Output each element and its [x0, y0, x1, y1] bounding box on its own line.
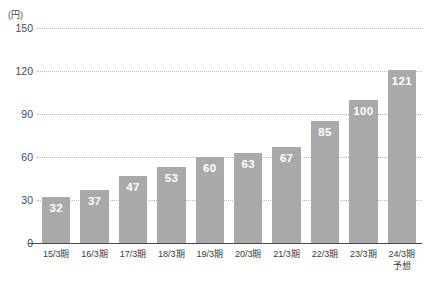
bar-slot: 85: [311, 28, 340, 243]
x-axis-tick-sublabel: 予想: [383, 260, 421, 272]
bar-value-label: 53: [157, 172, 186, 184]
x-axis-tick-label: 22/3期: [306, 248, 344, 260]
bar[interactable]: 60: [196, 157, 225, 243]
bar-slot: 63: [234, 28, 263, 243]
x-axis-baseline: [28, 243, 422, 244]
x-axis-tick-label-main: 20/3期: [235, 249, 262, 259]
bar[interactable]: 63: [234, 153, 263, 243]
x-axis-tick-label-main: 17/3期: [120, 249, 147, 259]
bar-slot: 67: [272, 28, 301, 243]
bar-value-label: 85: [311, 126, 340, 138]
x-axis-tick-label: 19/3期: [191, 248, 229, 260]
bar-slot: 47: [119, 28, 148, 243]
x-axis-tick-label: 24/3期予想: [383, 248, 421, 272]
bar-slot: 60: [196, 28, 225, 243]
y-axis-tick-label: 60: [3, 152, 33, 163]
bar-value-label: 67: [272, 152, 301, 164]
x-axis-tick-label-main: 21/3期: [273, 249, 300, 259]
bar[interactable]: 47: [119, 176, 148, 243]
y-axis-tick-label: 120: [3, 66, 33, 77]
x-axis-tick-label: 20/3期: [229, 248, 267, 260]
x-axis-tick-label-main: 24/3期: [389, 249, 416, 259]
x-axis-tick-label-main: 15/3期: [43, 249, 70, 259]
bar-value-label: 60: [196, 162, 225, 174]
bar-value-label: 121: [388, 75, 417, 87]
bar[interactable]: 85: [311, 121, 340, 243]
bar[interactable]: 100: [349, 100, 378, 243]
bar-slot: 32: [42, 28, 71, 243]
bar-value-label: 63: [234, 158, 263, 170]
bar[interactable]: 121: [388, 70, 417, 243]
y-axis: 0306090120150: [0, 28, 33, 243]
bar[interactable]: 37: [80, 190, 109, 243]
x-axis-tick-label-main: 16/3期: [81, 249, 108, 259]
y-axis-tick-label: 90: [3, 109, 33, 120]
bar-value-label: 100: [349, 105, 378, 117]
bar[interactable]: 53: [157, 167, 186, 243]
bar[interactable]: 67: [272, 147, 301, 243]
bar-slot: 37: [80, 28, 109, 243]
x-axis-tick-label-main: 22/3期: [312, 249, 339, 259]
x-axis-tick-label-main: 23/3期: [350, 249, 377, 259]
x-axis-tick-label-main: 19/3期: [197, 249, 224, 259]
bar-value-label: 37: [80, 195, 109, 207]
x-axis-tick-label: 16/3期: [75, 248, 113, 260]
bar-value-label: 32: [42, 202, 71, 214]
bar-slot: 121: [388, 28, 417, 243]
x-axis-tick-label: 15/3期: [37, 248, 75, 260]
y-axis-unit-label: (円): [8, 8, 23, 21]
y-axis-tick-label: 30: [3, 195, 33, 206]
bars-layer: 3237475360636785100121: [37, 28, 421, 243]
bar-value-label: 47: [119, 181, 148, 193]
x-axis-tick-label: 21/3期: [267, 248, 305, 260]
x-axis: 15/3期16/3期17/3期18/3期19/3期20/3期21/3期22/3期…: [37, 248, 421, 282]
x-axis-tick-label-main: 18/3期: [158, 249, 185, 259]
y-axis-tick-label: 150: [3, 23, 33, 34]
x-axis-tick-label: 23/3期: [344, 248, 382, 260]
x-axis-tick-label: 18/3期: [152, 248, 190, 260]
bar[interactable]: 32: [42, 197, 71, 243]
bar-slot: 100: [349, 28, 378, 243]
bar-slot: 53: [157, 28, 186, 243]
x-axis-tick-label: 17/3期: [114, 248, 152, 260]
bar-chart: (円) 0306090120150 3237475360636785100121…: [0, 0, 429, 283]
